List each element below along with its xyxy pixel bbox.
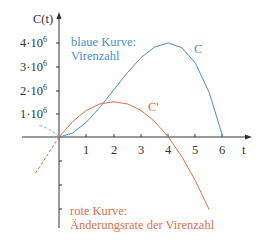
cprime-dashed-extension	[35, 137, 59, 174]
c-dashed-extension	[38, 125, 59, 137]
svg-text:Virenzahl: Virenzahl	[71, 49, 120, 63]
y-axis-arrow-icon	[57, 12, 62, 19]
svg-text:1·106: 1·106	[20, 106, 47, 121]
svg-text:3·106: 3·106	[20, 59, 47, 74]
svg-text:rote Kurve:: rote Kurve:	[70, 204, 127, 218]
axes	[22, 18, 246, 228]
svg-text:Änderungsrate der Virenzahl: Änderungsrate der Virenzahl	[70, 218, 215, 232]
y-axis-label: C(t)	[33, 12, 53, 26]
svg-text:blaue Kurve:: blaue Kurve:	[71, 35, 136, 49]
svg-text:6: 6	[219, 143, 225, 157]
svg-text:4·106: 4·106	[20, 35, 47, 50]
series-cprime-line	[59, 102, 209, 210]
red-annotation: rote Kurve: Änderungsrate der Virenzahl	[70, 204, 215, 232]
x-axis-arrow-icon	[245, 135, 252, 140]
svg-text:1: 1	[83, 143, 89, 157]
curve-label-cprime: C'	[148, 100, 159, 114]
svg-text:2·106: 2·106	[20, 83, 47, 98]
blue-annotation: blaue Kurve: Virenzahl	[71, 35, 136, 63]
svg-text:2: 2	[111, 143, 117, 157]
curve-label-c: C	[194, 42, 202, 56]
svg-text:5: 5	[192, 143, 198, 157]
chart: C(t) t 4·106 3·106 2·106 1·106 1 2 3 4 5…	[0, 0, 259, 243]
y-tick-labels: 4·106 3·106 2·106 1·106	[20, 35, 47, 121]
svg-text:4: 4	[165, 143, 172, 157]
x-axis-label: t	[242, 143, 246, 157]
x-tick-labels: 1 2 3 4 5 6	[83, 143, 225, 157]
svg-text:3: 3	[138, 143, 144, 157]
